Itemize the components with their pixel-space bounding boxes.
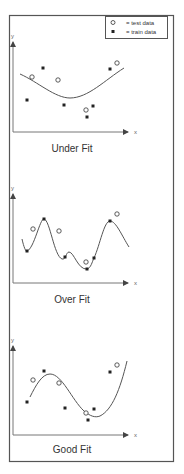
svg-text:y: y [11, 185, 14, 191]
svg-text:x: x [134, 432, 137, 438]
good-fit-title: Good Fit [12, 444, 132, 455]
under-fit-plot: y x [11, 33, 137, 135]
svg-text:y: y [11, 33, 14, 39]
outer-frame [10, 16, 174, 462]
fit-comparison-diagram: = test data = train data y x y x [0, 0, 184, 474]
legend-train-label: = train data [126, 29, 157, 35]
over-fit-title: Over Fit [12, 294, 132, 305]
underfit-curve [20, 68, 124, 98]
train-points [26, 67, 112, 119]
legend-test-label: = test data [126, 20, 155, 26]
test-data-legend-icon [111, 21, 115, 25]
legend: = test data = train data [106, 17, 168, 39]
overfit-curve [22, 219, 129, 269]
good-fit-plot: y x [11, 337, 137, 438]
goodfit-curve [30, 361, 127, 417]
svg-text:x: x [134, 129, 137, 135]
train-points [26, 370, 112, 422]
svg-text:y: y [11, 337, 14, 343]
under-fit-title: Under Fit [12, 143, 132, 154]
over-fit-plot: y x [11, 185, 137, 286]
svg-text:x: x [134, 280, 137, 286]
train-data-legend-icon [112, 30, 115, 33]
